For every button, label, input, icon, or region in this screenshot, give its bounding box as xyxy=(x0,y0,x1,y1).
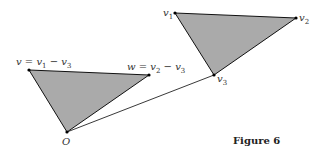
label-o: O xyxy=(62,137,70,147)
label-v1: v1 xyxy=(163,8,173,21)
vertex-v3-dot xyxy=(212,73,215,76)
label-v2: v2 xyxy=(299,13,309,26)
label-w: w = v2 − v3 xyxy=(127,62,185,75)
figure-canvas: v = v1 − v3 w = v2 − v3 O v1 v2 v3 Figur… xyxy=(0,0,322,153)
left-triangle xyxy=(29,70,149,132)
label-v: v = v1 − v3 xyxy=(16,57,71,70)
vertex-o-dot xyxy=(65,130,68,133)
figure-caption: Figure 6 xyxy=(233,136,280,146)
vertex-v1-dot xyxy=(173,11,176,14)
vertex-v2-dot xyxy=(294,16,297,19)
diagram-svg xyxy=(0,0,322,153)
label-v3: v3 xyxy=(217,74,227,87)
right-triangle xyxy=(175,13,296,75)
